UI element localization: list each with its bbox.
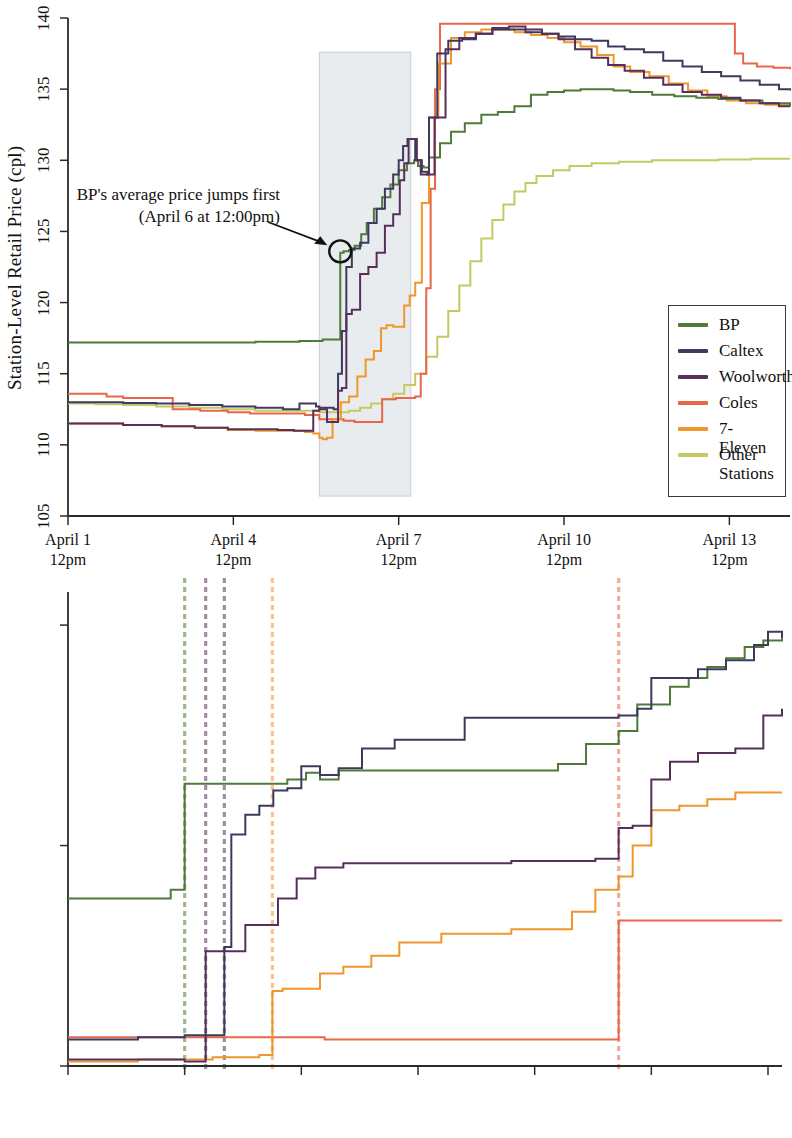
x-tick-date: April 7: [349, 530, 449, 550]
series-line-caltex: [68, 632, 782, 1040]
legend-item[interactable]: 7-Eleven: [678, 419, 775, 445]
top-y-tick-label: 125: [34, 213, 54, 249]
x-tick-time: 12pm: [514, 550, 614, 570]
legend-swatch-icon: [678, 427, 708, 431]
legend-label: Coles: [719, 393, 758, 412]
series-line-7-eleven: [68, 793, 782, 1062]
top-y-tick-label: 130: [34, 142, 54, 178]
legend-item[interactable]: BP: [678, 315, 775, 341]
legend-label: Other Stations: [719, 445, 774, 483]
legend-item[interactable]: Other Stations: [678, 445, 775, 485]
x-tick-time: 12pm: [18, 550, 118, 570]
legend-item[interactable]: Coles: [678, 393, 775, 419]
bottom-chart-svg: [0, 570, 792, 1138]
bottom-chart-panel: Station-Level Retail Price (cpl) 1101201…: [0, 570, 792, 1138]
series-line-coles: [68, 920, 782, 1039]
top-x-tick-label: April 112pm: [18, 530, 118, 569]
annotation-line-2: (April 6 at 12:00pm): [139, 207, 280, 226]
legend-item[interactable]: Caltex: [678, 341, 775, 367]
top-y-tick-label: 115: [34, 356, 54, 392]
top-annotation-text: BP's average price jumps first (April 6 …: [70, 184, 280, 228]
bottom-axes: [68, 592, 782, 1066]
x-tick-date: April 4: [183, 530, 283, 550]
x-tick-time: 12pm: [183, 550, 283, 570]
legend-label: Woolworths: [719, 367, 792, 386]
x-tick-date: April 10: [514, 530, 614, 550]
legend-swatch-icon: [678, 453, 708, 457]
x-tick-date: April 13: [679, 530, 779, 550]
legend-item[interactable]: Woolworths: [678, 367, 775, 393]
top-y-tick-label: 120: [34, 285, 54, 321]
figure-root: Station-Level Retail Price (cpl) 1051101…: [0, 0, 792, 1138]
annotation-line-1: BP's average price jumps first: [77, 185, 280, 204]
legend-swatch-icon: [678, 401, 708, 405]
chart-legend: BPCaltexWoolworthsColes7-ElevenOther Sta…: [668, 305, 786, 497]
top-y-tick-label: 135: [34, 71, 54, 107]
legend-label: Caltex: [719, 341, 763, 360]
x-tick-date: April 1: [18, 530, 118, 550]
series-line-woolworths: [68, 709, 782, 1062]
top-x-tick-label: April 412pm: [183, 530, 283, 569]
top-y-tick-label: 105: [34, 498, 54, 534]
top-chart-panel: Station-Level Retail Price (cpl) 1051101…: [0, 0, 792, 570]
top-y-tick-label: 110: [34, 427, 54, 463]
top-y-tick-label: 140: [34, 0, 54, 36]
legend-swatch-icon: [678, 323, 708, 327]
top-x-tick-label: April 1312pm: [679, 530, 779, 569]
legend-label: BP: [719, 315, 740, 334]
legend-swatch-icon: [678, 375, 708, 379]
top-x-tick-label: April 1012pm: [514, 530, 614, 569]
x-tick-time: 12pm: [679, 550, 779, 570]
legend-swatch-icon: [678, 349, 708, 353]
x-tick-time: 12pm: [349, 550, 449, 570]
top-x-tick-label: April 712pm: [349, 530, 449, 569]
